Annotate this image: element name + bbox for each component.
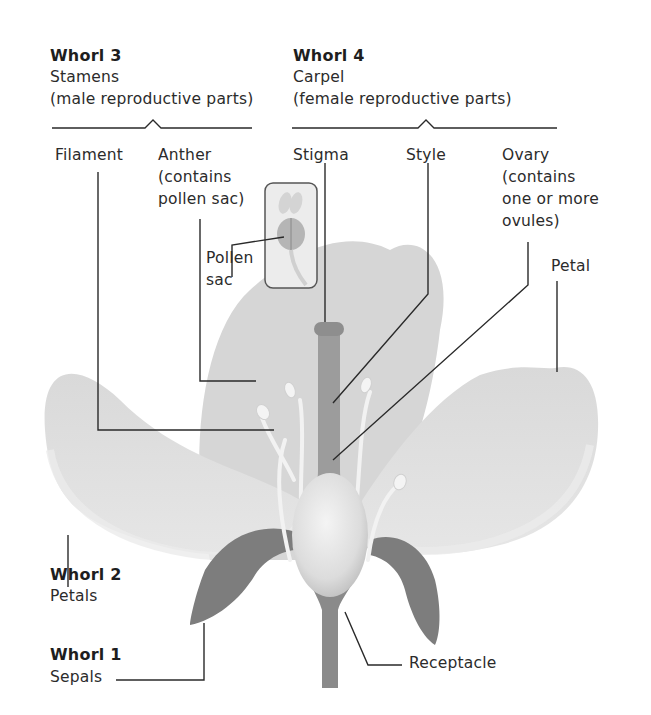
pollen-sac-label-line1: Pollen bbox=[206, 248, 253, 269]
whorl1-name: Sepals bbox=[50, 667, 102, 688]
petal-label: Petal bbox=[551, 256, 590, 277]
whorl4-description: (female reproductive parts) bbox=[293, 89, 512, 110]
pollen-sac-inset bbox=[265, 183, 317, 288]
whorl4-name: Carpel bbox=[293, 67, 345, 88]
stigma-label: Stigma bbox=[293, 145, 349, 166]
pollen-sac-label-line2: sac bbox=[206, 270, 233, 291]
whorl3-name: Stamens bbox=[50, 67, 119, 88]
style-label: Style bbox=[406, 145, 446, 166]
whorl2-heading: Whorl 2 bbox=[50, 564, 122, 585]
anther-label-line1: Anther bbox=[158, 145, 211, 166]
ovary-label-line4: ovules) bbox=[502, 211, 560, 232]
anther-label-line2: (contains bbox=[158, 167, 231, 188]
ovary bbox=[292, 473, 368, 597]
stigma bbox=[314, 322, 344, 336]
whorl2-name: Petals bbox=[50, 586, 98, 607]
whorl1-heading: Whorl 1 bbox=[50, 644, 122, 665]
whorl-brackets bbox=[52, 120, 557, 128]
whorl4-heading: Whorl 4 bbox=[293, 45, 365, 66]
anther-label-line3: pollen sac) bbox=[158, 189, 245, 210]
whorl3-heading: Whorl 3 bbox=[50, 45, 122, 66]
receptacle-label: Receptacle bbox=[409, 653, 496, 674]
ovary-label-line1: Ovary bbox=[502, 145, 549, 166]
filament-label: Filament bbox=[55, 145, 123, 166]
ovary-label-line2: (contains bbox=[502, 167, 575, 188]
flower-diagram: Whorl 3 Stamens (male reproductive parts… bbox=[0, 0, 651, 715]
ovary-label-line3: one or more bbox=[502, 189, 599, 210]
whorl3-description: (male reproductive parts) bbox=[50, 89, 253, 110]
